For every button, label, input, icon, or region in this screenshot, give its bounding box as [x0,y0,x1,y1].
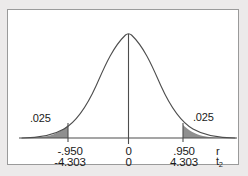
alpha-label-right: .025 [193,112,214,123]
figure-frame: .025 .025 -.950 0 .950 -4.303 0 4.303 r … [7,9,239,165]
axis-name-t-subscript: 2 [219,160,223,169]
tick-label-t-right: 4.303 [170,157,198,169]
axis-name-t: t2 [216,156,223,169]
alpha-label-left: .025 [30,113,51,124]
distribution-chart [8,10,240,166]
tick-label-t-center: 0 [125,157,131,169]
tick-label-t-left: -4.303 [54,157,85,169]
